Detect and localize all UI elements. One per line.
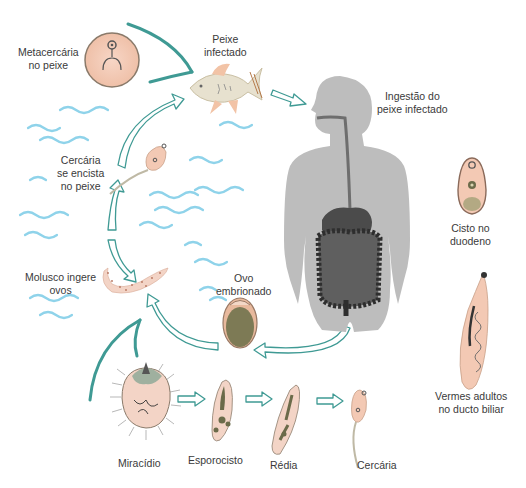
label-molusco-line2: ovos — [25, 284, 96, 297]
label-cercaria-encista-line2: se encista — [57, 167, 104, 180]
fish-illustration — [190, 64, 262, 114]
label-metacercaria: Metacercária no peixe — [18, 46, 79, 72]
encysting-cercaria-illustration — [110, 144, 166, 194]
metacercaria-illustration — [85, 33, 139, 87]
egg-illustration — [223, 298, 257, 348]
label-peixe-infectado: Peixe infectado — [204, 33, 247, 59]
label-ovo-embrionado: Ovo embrionado — [216, 272, 271, 298]
label-peixe-line2: infectado — [204, 46, 247, 59]
cercaria-illustration — [352, 390, 367, 468]
label-vermes-adultos: Vermes adultos no ducto biliar — [435, 390, 507, 416]
label-ovo-line2: embrionado — [216, 285, 271, 298]
label-vermes-line1: Vermes adultos — [435, 390, 507, 403]
label-molusco: Molusco ingere ovos — [25, 271, 96, 297]
label-vermes-line2: no ducto biliar — [435, 403, 507, 416]
label-peixe-line1: Peixe — [204, 33, 247, 46]
label-cisto-line2: duodeno — [450, 235, 491, 248]
redia-illustration — [272, 385, 300, 454]
label-redia: Rédia — [270, 459, 297, 472]
adult-worm-illustration — [460, 272, 488, 389]
label-cercaria: Cercária — [357, 459, 397, 472]
label-ingestao: Ingestão do peixe infectado — [377, 90, 448, 116]
label-cercaria-encista-line3: no peixe — [57, 180, 104, 193]
sporocyst-illustration — [212, 380, 232, 441]
label-cisto-duodeno: Cisto no duodeno — [450, 222, 491, 248]
label-miracidio: Miracídio — [118, 457, 161, 470]
label-esporocisto: Esporocisto — [188, 454, 243, 467]
life-cycle-diagram: Metacercária no peixe Peixe infectado In… — [0, 0, 526, 488]
label-cercaria-encista-line1: Cercária — [57, 154, 104, 167]
miracidium-illustration — [110, 362, 181, 440]
label-cisto-line1: Cisto no — [450, 222, 491, 235]
label-metacercaria-line2: no peixe — [18, 59, 79, 72]
label-ingestao-line2: peixe infectado — [377, 103, 448, 116]
cyst-illustration — [458, 158, 486, 214]
label-ingestao-line1: Ingestão do — [377, 90, 448, 103]
label-metacercaria-line1: Metacercária — [18, 46, 79, 59]
label-cercaria-encista: Cercária se encista no peixe — [57, 154, 104, 193]
label-molusco-line1: Molusco ingere — [25, 271, 96, 284]
label-ovo-line1: Ovo — [216, 272, 271, 285]
